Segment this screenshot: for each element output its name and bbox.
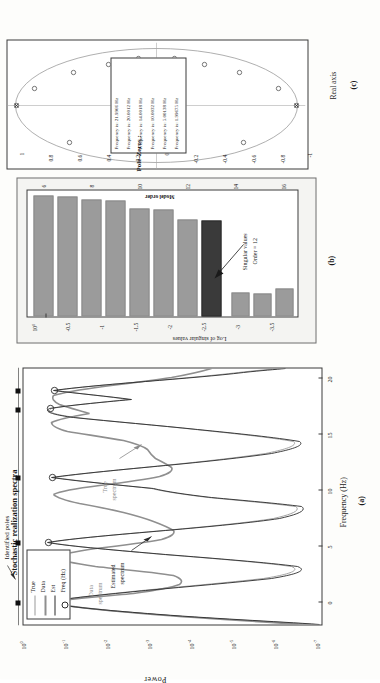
panel-b-bar-10 <box>153 209 173 316</box>
panel-c-ytick-04: 0.4 <box>105 154 111 161</box>
legend-row-est: Est <box>50 550 59 618</box>
legend-row-data: Data <box>40 550 49 618</box>
panel-b-order-label-14: 14 <box>232 184 238 190</box>
panel-c-ytick-06: 0.6 <box>76 154 82 161</box>
panel-c-ytick-m02: -0.2 <box>192 154 198 163</box>
panel-c-ytick-1: 1 <box>18 152 24 155</box>
panel-a-ytick-3: 10-3 <box>144 639 152 649</box>
panel-a-xtick-label-2: 10 <box>326 488 332 494</box>
panel-a-xtick-4 <box>318 377 322 378</box>
panel-b-bar-6 <box>57 196 77 316</box>
panel-a-ylabel: Power <box>144 674 166 683</box>
panel-b-y-35: -3.5 <box>268 322 274 331</box>
panel-b-xtick-6 <box>45 313 46 317</box>
panel-b-plot-area: Singular values Order = 12 <box>26 189 298 317</box>
panel-c-title: Pole-Zeros : <box>134 135 142 171</box>
panel-b-bar-7 <box>81 199 101 316</box>
panel-c-plot-area: Frequency is: 21.9966 Hz Frequency is: 2… <box>6 39 308 169</box>
panel-b-order-label-8: 8 <box>88 184 94 187</box>
panel-b-bar-11 <box>177 219 197 316</box>
panel-b-bar-14 <box>253 293 271 316</box>
panel-b-annotation-line2: Order = 12 <box>251 238 257 264</box>
identified-poles-markers <box>4 367 24 625</box>
panel-c-ytick-m1: -1 <box>306 152 312 157</box>
panel-a-annotation-estimated-spectrum-line1: Estimated <box>109 564 115 588</box>
panel-b-ylabel: Log of singular values <box>172 335 226 341</box>
panel-b-bar-15 <box>275 288 293 316</box>
panel-a-xtick-3 <box>318 433 322 434</box>
panel-b-y-25: -2.5 <box>200 322 206 331</box>
panel-a-annotation-estimated-spectrum-line2: spectrum <box>118 562 124 584</box>
panel-c-pole-zeros: 1 0.8 0.6 0.4 0.2 0 -0.2 -0.4 -0.6 -0.8 … <box>6 3 374 169</box>
panel-a-annotation-true-spectrum-line1: True <box>101 481 107 492</box>
panel-c-frequency-4: Frequency is: 5.00138 Hz <box>161 97 166 149</box>
panel-c-ytick-m04: -0.4 <box>221 154 227 163</box>
panel-b-caption: (b) <box>326 255 335 265</box>
panel-a-ytick-0: 100 <box>18 641 26 649</box>
panel-b-bar-13 <box>231 292 249 316</box>
panel-c-frequency-3: Frequency is: 10.0032 Hz <box>149 97 154 149</box>
panel-b-order-label-16: 16 <box>280 184 286 190</box>
panel-a-xlabel: Frequency (Hz) <box>338 477 347 527</box>
panel-b-y-05: -0.5 <box>64 322 70 331</box>
panel-c-ytick-m06: -0.6 <box>250 154 256 163</box>
panel-a-ytick-6: 10-6 <box>270 639 278 649</box>
panel-c-frequency-list-box: Frequency is: 21.9966 Hz Frequency is: 2… <box>110 57 186 153</box>
identified-poles-text: Identified poles <box>2 515 10 559</box>
panel-a-ytick-2: 10-2 <box>102 639 110 649</box>
legend-line-true <box>34 595 35 615</box>
panel-a-legend: True Data Est Freq (Hz) <box>26 549 70 619</box>
panel-a-xtick-label-4: 20 <box>326 376 332 382</box>
legend-label-data: Data <box>39 581 45 592</box>
legend-label-true: True <box>29 581 35 592</box>
panel-c-frequency-1: Frequency is: 20.0012 Hz <box>125 97 130 149</box>
panel-a-caption: (a) <box>356 496 365 505</box>
panel-b-y-2: -2 <box>166 324 172 329</box>
legend-row-freq: Freq (Hz) <box>60 550 69 618</box>
panel-a-stochastic-realization-spectra: Power 100 10-1 10-2 10-3 10-4 10-5 10-6 … <box>6 353 374 671</box>
panel-c-frequency-5: Frequency is: 1.99675 Hz <box>173 97 178 149</box>
panel-b-y-1: -1 <box>98 324 104 329</box>
panel-b-y-3: -3 <box>234 324 240 329</box>
panel-b-bar-9 <box>129 208 149 316</box>
legend-label-est: Est <box>49 584 55 592</box>
panel-a-ytick-4: 10-4 <box>186 639 194 649</box>
panel-b-y-0: 100 <box>30 324 38 332</box>
panel-a-ytick-5: 10-5 <box>228 639 236 649</box>
legend-circle-icon <box>61 601 68 608</box>
panel-a-ytick-7: 10-7 <box>312 639 320 649</box>
panel-a-annotation-data-spectrum-line2: spectrum <box>96 582 102 604</box>
panel-a-annotation-data-spectrum-line1: Data <box>87 585 93 596</box>
panel-c-ytick-m08: -0.8 <box>279 154 285 163</box>
panel-b-order-label-10: 10 <box>136 184 142 190</box>
panel-a-xtick-0 <box>318 601 322 602</box>
legend-row-true: True <box>30 550 39 618</box>
panel-a-xtick-label-1: 5 <box>326 545 332 548</box>
panel-b-annotation-arrow <box>213 240 247 280</box>
panel-c-xlabel: Real axis <box>328 71 337 99</box>
legend-line-data <box>44 595 46 615</box>
panel-a-xtick-label-3: 15 <box>326 432 332 438</box>
panel-c-ytick-08: 0.8 <box>47 154 53 161</box>
panel-c-frequency-0: Frequency is: 21.9966 Hz <box>113 97 118 149</box>
panel-b-singular-values: Log of singular values 10^0 100 -0.5 -1 … <box>6 175 374 345</box>
legend-label-freq: Freq (Hz) <box>59 569 65 593</box>
panel-b-order-label-12: 12 <box>184 184 190 190</box>
panel-b-order-label-6: 6 <box>40 184 46 187</box>
panel-c-caption: (c) <box>348 80 357 89</box>
panel-b-bar-5 <box>33 195 53 316</box>
panel-b-bar-8 <box>105 200 125 316</box>
panel-b-y-15: -1.5 <box>132 322 138 331</box>
panel-a-ytick-1: 10-1 <box>60 639 68 649</box>
panel-a-xtick-2 <box>318 489 322 490</box>
panel-a-xtick-label-0: 0 <box>326 601 332 604</box>
panel-b-xlabel: Model order <box>145 193 174 199</box>
panel-a-xtick-1 <box>318 545 322 546</box>
panel-a-annotation-true-spectrum-line2: spectrum <box>110 478 116 500</box>
legend-line-est <box>54 595 55 615</box>
